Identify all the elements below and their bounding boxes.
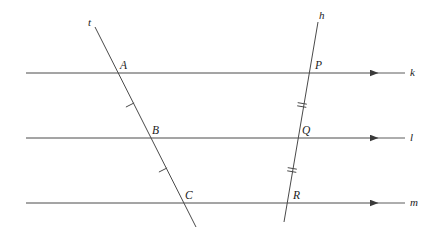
point-label-A: A (120, 60, 127, 72)
line-label-m: m (410, 197, 418, 208)
tick-mark-BC-1 (159, 168, 167, 172)
point-label-B: B (152, 125, 159, 137)
tick-mark-PQ-1 (298, 103, 307, 105)
parallel-lines-group (26, 73, 405, 203)
tick-mark-QR-1 (288, 168, 297, 170)
tick-mark-QR-2 (287, 171, 296, 173)
line-label-l: l (410, 132, 413, 143)
tick-mark-PQ-2 (297, 106, 306, 108)
transversal-line-h (284, 22, 318, 222)
line-label-k: k (410, 67, 415, 78)
point-label-R: R (293, 190, 300, 202)
point-label-Q: Q (302, 125, 310, 137)
line-label-t: t (88, 17, 91, 28)
diagram-canvas (0, 0, 438, 236)
transversal-lines-group (95, 22, 318, 227)
transversal-line-t (95, 27, 196, 227)
geometry-figure: klmthABCPQR (0, 0, 438, 236)
point-label-P: P (315, 60, 322, 72)
tick-mark-AB-1 (126, 103, 134, 107)
point-label-C: C (185, 190, 193, 202)
line-label-h: h (319, 10, 325, 21)
